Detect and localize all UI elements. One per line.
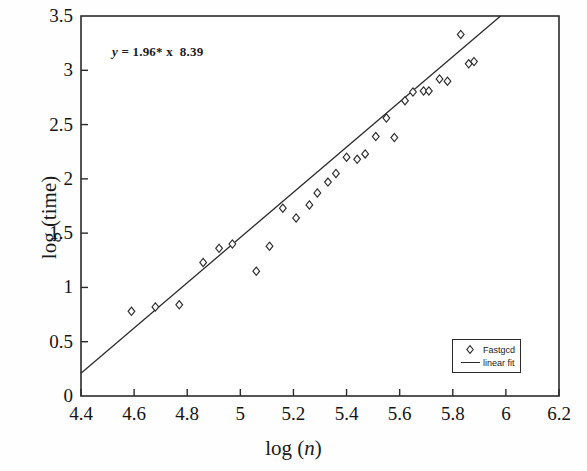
x-axis-label: log (n) <box>0 436 587 461</box>
legend-item-linear-fit: linear fit <box>457 356 515 369</box>
y-tick-label: 0.5 <box>23 331 73 353</box>
legend-box: Fastgcd linear fit <box>452 339 521 373</box>
y-tick-label: 1.5 <box>23 222 73 244</box>
legend-item-fastgcd: Fastgcd <box>457 343 515 356</box>
y-tick-label: 0 <box>23 385 73 407</box>
x-tick-label: 6 <box>501 403 511 425</box>
diamond-marker-icon <box>457 344 483 355</box>
y-tick-label: 2 <box>23 168 73 190</box>
x-tick-label: 5.6 <box>388 403 412 425</box>
y-tick-label: 3.5 <box>23 5 73 27</box>
x-tick-label: 4.6 <box>122 403 146 425</box>
y-tick-label: 1 <box>23 276 73 298</box>
x-tick-label: 5.4 <box>335 403 359 425</box>
fit-equation-annotation: y = 1.96* x 8.39 <box>112 44 203 60</box>
legend-label-fastgcd: Fastgcd <box>483 345 515 355</box>
legend-label-linear-fit: linear fit <box>483 358 515 368</box>
x-tick-label: 6.2 <box>547 403 571 425</box>
equation-body: = 1.96* x 8.39 <box>118 44 203 59</box>
x-tick-label: 5.2 <box>282 403 306 425</box>
y-tick-label: 3 <box>23 59 73 81</box>
x-tick-label: 5.8 <box>441 403 465 425</box>
x-axis-label-prefix: log ( <box>265 436 304 460</box>
x-axis-label-suffix: ) <box>315 436 322 460</box>
x-tick-label: 4.8 <box>175 403 199 425</box>
x-axis-label-variable: n <box>304 436 315 460</box>
line-segment-icon <box>457 362 483 363</box>
figure-container: log (time) log (n) y = 1.96* x 8.39 Fast… <box>0 0 587 471</box>
x-tick-label: 5 <box>236 403 246 425</box>
plot-canvas <box>0 0 587 471</box>
y-tick-label: 2.5 <box>23 114 73 136</box>
